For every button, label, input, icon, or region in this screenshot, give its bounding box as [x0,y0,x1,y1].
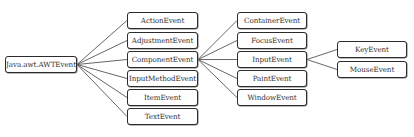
node-componentevent: ComponentEvent [127,51,198,68]
node-label: KeyEvent [355,45,389,54]
node-adjustmentevent: AdjustmentEvent [127,32,198,49]
class-hierarchy-diagram: Java.awt.AWTEvent ActionEvent Adjustment… [0,0,414,137]
node-windowevent: WindowEvent [237,89,307,106]
node-label: ActionEvent [141,16,184,25]
node-label: ItemEvent [144,93,181,102]
node-label: FocusEvent [251,36,292,45]
node-label: InputMethodEvent [129,74,196,83]
node-label: WindowEvent [247,93,296,102]
node-label: Java.awt.AWTEvent [6,60,76,69]
node-inputevent: InputEvent [237,51,307,68]
node-label: ContainerEvent [244,16,300,25]
node-awtevent: Java.awt.AWTEvent [5,56,77,73]
node-keyevent: KeyEvent [337,41,407,58]
node-label: ComponentEvent [132,55,194,64]
node-inputmethodevent: InputMethodEvent [127,70,198,87]
node-containerevent: ContainerEvent [237,12,307,29]
node-textevent: TextEvent [127,108,198,125]
node-focusevent: FocusEvent [237,32,307,49]
node-itemevent: ItemEvent [127,89,198,106]
node-mouseevent: MouseEvent [337,61,407,78]
node-label: AdjustmentEvent [132,36,193,45]
node-paintevent: PaintEvent [237,70,307,87]
node-label: InputEvent [252,55,292,64]
node-actionevent: ActionEvent [127,12,198,29]
node-label: MouseEvent [350,65,394,74]
node-label: TextEvent [145,112,181,121]
node-label: PaintEvent [253,74,292,83]
